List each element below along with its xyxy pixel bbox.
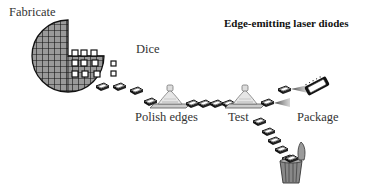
packaged-chip-icon	[303, 74, 330, 96]
test-station-icon	[225, 85, 265, 108]
laser-beam-icon	[261, 85, 308, 107]
polishing-machine-icon	[150, 85, 190, 108]
label-test: Test	[228, 110, 249, 125]
label-package: Package	[297, 110, 339, 125]
process-diagram	[0, 0, 368, 195]
diagram-title: Edge-emitting laser diodes	[224, 17, 348, 29]
label-fabricate: Fabricate	[9, 5, 56, 20]
diced-dies	[72, 50, 116, 77]
label-dice: Dice	[136, 42, 160, 57]
label-polish-edges: Polish edges	[135, 110, 198, 125]
chip-icon	[96, 83, 157, 106]
